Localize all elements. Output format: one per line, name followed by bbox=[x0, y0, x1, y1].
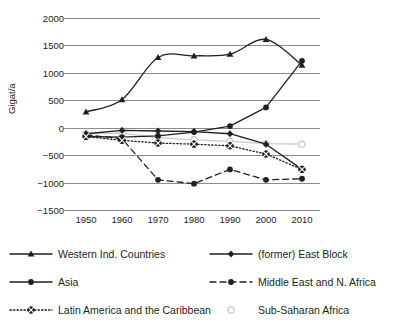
data-series-layer bbox=[68, 18, 320, 210]
legend-item-label: (former) East Block bbox=[258, 248, 348, 260]
series-western-ind-countries bbox=[83, 36, 306, 114]
legend-sample-circle-filled bbox=[8, 275, 54, 289]
gridline bbox=[68, 210, 320, 211]
y-tick-label: 0 bbox=[4, 122, 64, 133]
y-tick-label: −1500 bbox=[4, 205, 64, 216]
clipped-top-caption bbox=[296, 0, 404, 6]
y-tick-label: −500 bbox=[4, 150, 64, 161]
legend-sample-circle-open bbox=[208, 303, 254, 317]
legend-sample-diamond bbox=[208, 247, 254, 261]
legend-sample-circle-filled bbox=[208, 275, 254, 289]
y-tick-label: −1000 bbox=[4, 177, 64, 188]
legend-item-label: Latin America and the Caribbean bbox=[58, 304, 211, 316]
x-tick-label: 1980 bbox=[183, 214, 204, 225]
legend-sample-triangle bbox=[8, 247, 54, 261]
x-tick-label: 1970 bbox=[147, 214, 168, 225]
series-asia bbox=[83, 58, 305, 140]
y-tick-label: 1500 bbox=[4, 40, 64, 51]
legend-item[interactable]: Middle East and N. Africa bbox=[208, 271, 376, 293]
legend-sample-circle-cross bbox=[8, 303, 54, 317]
legend-item[interactable]: (former) East Block bbox=[208, 243, 348, 265]
legend-item[interactable]: Asia bbox=[8, 271, 78, 293]
x-tick-label: 1960 bbox=[111, 214, 132, 225]
legend-item[interactable]: Western Ind. Countries bbox=[8, 243, 165, 265]
x-tick-label: 2010 bbox=[291, 214, 312, 225]
x-tick-label: 1950 bbox=[75, 214, 96, 225]
y-tick-mark bbox=[64, 210, 68, 211]
plot-area: 2000150010005000−500−1000−1500 195019601… bbox=[68, 18, 320, 210]
legend-item-label: Sub-Saharan Africa bbox=[258, 304, 349, 316]
x-tick-label: 2000 bbox=[255, 214, 276, 225]
legend-item-label: Western Ind. Countries bbox=[58, 248, 165, 260]
legend-item-label: Asia bbox=[58, 276, 78, 288]
legend-item[interactable]: Sub-Saharan Africa bbox=[208, 299, 349, 321]
x-tick-label: 1990 bbox=[219, 214, 240, 225]
y-tick-label: 500 bbox=[4, 95, 64, 106]
chart-figure: Gigat/a 2000150010005000−500−1000−1500 1… bbox=[0, 0, 404, 328]
legend-item-label: Middle East and N. Africa bbox=[258, 276, 376, 288]
y-tick-label: 1000 bbox=[4, 67, 64, 78]
legend-item[interactable]: Latin America and the Caribbean bbox=[8, 299, 211, 321]
y-tick-label: 2000 bbox=[4, 13, 64, 24]
legend: Western Ind. Countries(former) East Bloc… bbox=[8, 243, 400, 325]
